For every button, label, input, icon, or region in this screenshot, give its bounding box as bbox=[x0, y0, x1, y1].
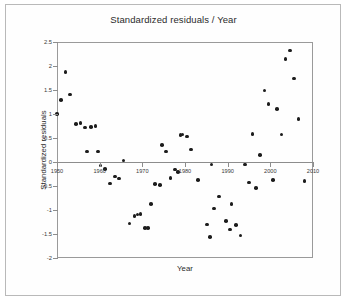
y-axis-tick-label: 1 bbox=[49, 111, 52, 117]
x-axis-tick-label: 2010 bbox=[307, 168, 319, 174]
x-axis-tick bbox=[228, 162, 229, 167]
y-axis-tick-label: -1.5 bbox=[42, 231, 52, 237]
y-axis-tick bbox=[53, 234, 58, 235]
y-axis-tick bbox=[53, 66, 58, 67]
y-axis-tick-label: -2 bbox=[47, 255, 52, 261]
x-axis-tick bbox=[270, 162, 271, 167]
chart-title: Standardized residuals / Year bbox=[0, 14, 347, 25]
y-axis-tick bbox=[53, 258, 58, 259]
y-axis-tick bbox=[53, 210, 58, 211]
x-axis-tick-label: 1970 bbox=[136, 168, 148, 174]
y-axis-tick bbox=[53, 186, 58, 187]
y-axis-tick bbox=[53, 42, 58, 43]
y-axis-tick-label: 0 bbox=[49, 159, 52, 165]
x-axis-tick bbox=[142, 162, 143, 167]
x-axis-title: Year bbox=[57, 264, 313, 273]
x-axis-tick-label: 1980 bbox=[179, 168, 191, 174]
y-axis-tick-label: -1 bbox=[47, 207, 52, 213]
y-axis-tick-label: 2.5 bbox=[44, 39, 52, 45]
x-axis-tick-label: 1960 bbox=[93, 168, 105, 174]
y-axis-tick bbox=[53, 138, 58, 139]
x-axis-tick-label: 2000 bbox=[264, 168, 276, 174]
y-axis-tick bbox=[53, 90, 58, 91]
y-axis-tick-label: 1.5 bbox=[44, 87, 52, 93]
chart-figure: Standardized residuals / Year 1950196019… bbox=[0, 0, 347, 304]
x-axis-tick-label: 1990 bbox=[221, 168, 233, 174]
x-axis-tick-label: 1950 bbox=[51, 168, 63, 174]
y-axis-tick bbox=[53, 162, 58, 163]
y-axis-tick bbox=[53, 114, 58, 115]
x-axis-tick bbox=[100, 162, 101, 167]
y-axis-tick-label: 2 bbox=[49, 63, 52, 69]
x-axis-tick bbox=[313, 162, 314, 167]
x-axis-tick bbox=[185, 162, 186, 167]
y-axis-title: Standardized residuals bbox=[39, 110, 48, 189]
plot-area bbox=[57, 42, 313, 258]
